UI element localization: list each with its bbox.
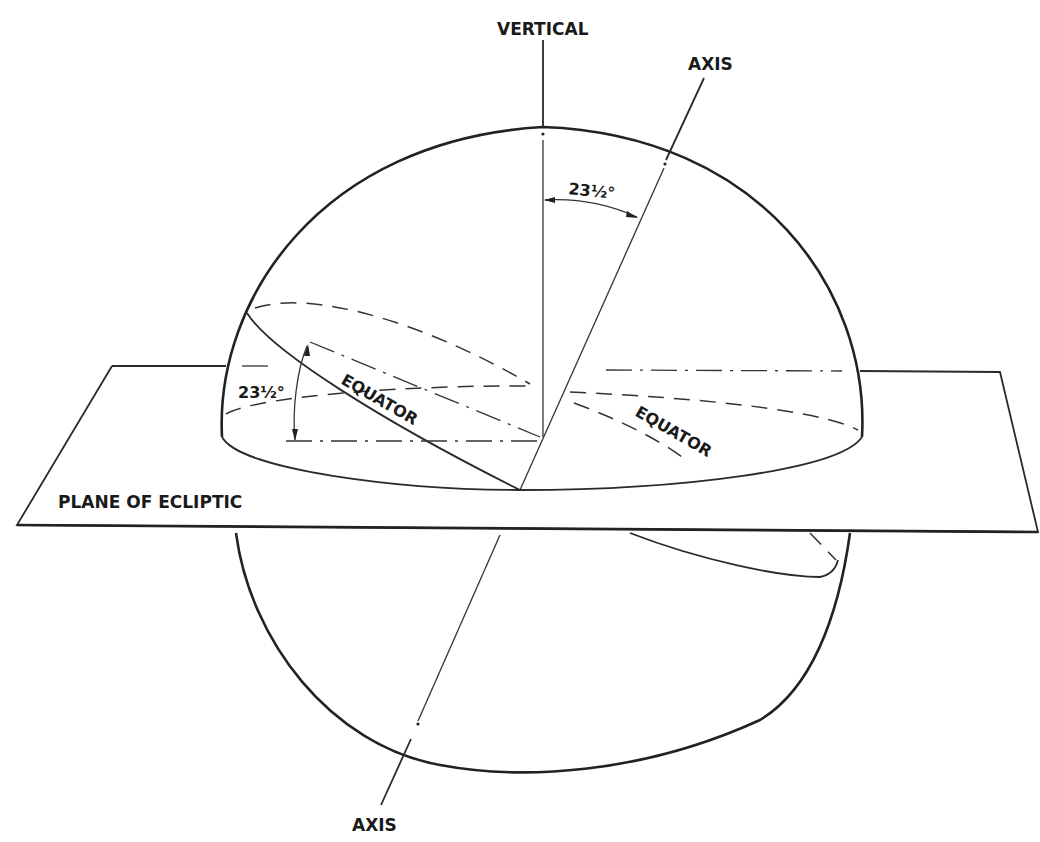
vertical-label: VERTICAL [497, 19, 589, 39]
axis-line-bottom-outside [381, 739, 411, 805]
plane-of-ecliptic-label: PLANE OF ECLIPTIC [58, 492, 242, 512]
horizontal-cut-front [222, 437, 862, 490]
axis-line-top-outside [666, 78, 704, 160]
ecliptic-plane-front-edge [17, 525, 1038, 532]
tilted-equator-back [255, 303, 530, 384]
axis-line-bottom-inside [418, 535, 500, 721]
equator-left-label: EQUATOR [338, 370, 421, 429]
ecliptic-diagram: VERTICAL AXIS AXIS 23½° 23½° EQUATOR EQU… [0, 0, 1040, 842]
equator-right-label: EQUATOR [632, 402, 715, 461]
top-angle-arc [545, 200, 637, 217]
axis-top-label: AXIS [688, 54, 733, 74]
tilt-angle-left-label: 23½° [238, 383, 285, 402]
tilted-equator-lower-dashed [810, 533, 836, 560]
axis-bottom-label: AXIS [352, 815, 397, 835]
tilted-equator-lower [630, 533, 838, 577]
horizontal-cut-back-right [570, 392, 858, 430]
sphere-upper-outline [222, 127, 863, 437]
axis-line-top-inside [520, 168, 664, 490]
ecliptic-hidden-line-right [606, 370, 842, 371]
tilt-angle-top-label: 23½° [568, 179, 617, 203]
